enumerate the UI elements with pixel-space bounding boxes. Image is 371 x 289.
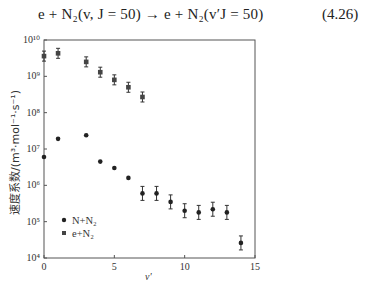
circle-marker	[182, 208, 187, 213]
circle-marker	[42, 155, 47, 160]
legend-label-e-n2: e+N₂	[72, 228, 94, 239]
x-tick-label: 5	[112, 261, 117, 272]
square-marker	[126, 85, 131, 90]
y-axis-label: 速度系数/(m³·mol⁻¹·s⁻¹)	[8, 90, 22, 215]
circle-marker	[211, 207, 216, 212]
circle-marker	[239, 241, 244, 246]
circle-marker	[98, 159, 103, 164]
square-marker	[140, 95, 145, 100]
y-tick-label: 10¹⁰	[23, 34, 40, 45]
circle-marker	[126, 176, 131, 181]
circle-marker	[168, 200, 173, 205]
x-axis-label: v'	[145, 271, 152, 282]
circle-marker	[196, 210, 201, 215]
square-marker	[84, 60, 89, 65]
circle-marker	[84, 133, 89, 138]
legend-circle-marker-icon	[62, 218, 66, 222]
square-marker	[98, 70, 103, 75]
y-tick-label: 10⁵	[27, 216, 41, 227]
square-marker	[42, 54, 47, 59]
x-tick-label: 15	[250, 261, 260, 272]
circle-marker	[56, 137, 61, 142]
legend: N+N₂ e+N₂	[62, 215, 97, 239]
square-marker	[56, 51, 61, 56]
y-tick-label: 10⁷	[27, 143, 41, 154]
y-tick-label: 10⁸	[27, 107, 41, 118]
rate-coefficient-chart: 10⁴10⁵10⁶10⁷10⁸10⁹10¹⁰ 051015 N+N₂ e+N₂ …	[0, 0, 371, 289]
square-marker	[112, 78, 117, 83]
circle-marker	[140, 191, 145, 196]
y-tick-label: 10⁹	[27, 70, 41, 81]
y-tick-label: 10⁶	[27, 179, 41, 190]
circle-marker	[154, 191, 159, 196]
circle-marker	[225, 210, 230, 215]
y-tick-label: 10⁴	[27, 252, 41, 263]
x-tick-label: 0	[42, 261, 47, 272]
y-axis-ticks: 10⁴10⁵10⁶10⁷10⁸10⁹10¹⁰	[23, 34, 47, 263]
circle-marker	[112, 166, 117, 171]
legend-label-n-n2: N+N₂	[72, 215, 97, 226]
legend-square-marker-icon	[62, 231, 66, 235]
x-tick-label: 10	[180, 261, 190, 272]
